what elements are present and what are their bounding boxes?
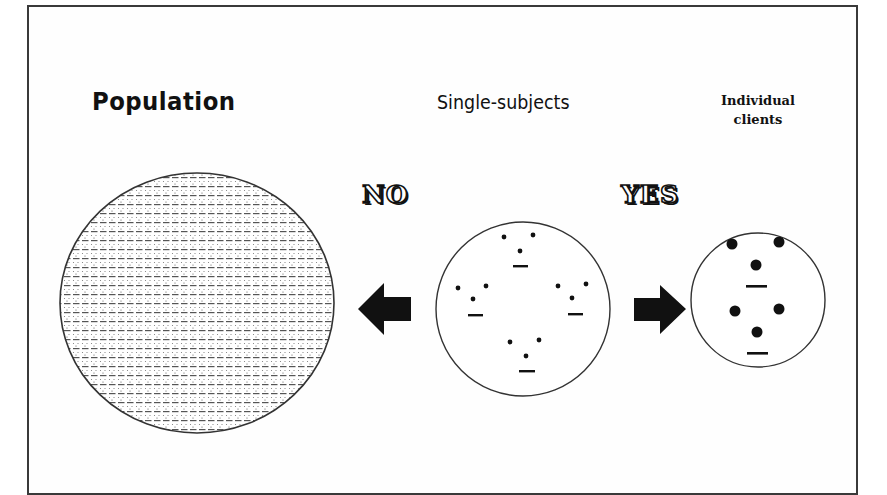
arrow-left-icon: [358, 283, 411, 335]
individual-clients-circle: [691, 233, 825, 367]
single-subjects-circle: [436, 222, 610, 396]
population-circle: [60, 173, 334, 433]
arrow-right-icon: [634, 285, 686, 334]
